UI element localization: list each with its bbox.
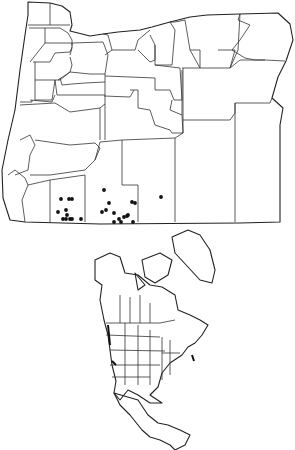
occurrence-dot bbox=[70, 217, 74, 221]
range-shading bbox=[108, 325, 194, 365]
county-lines bbox=[8, 3, 285, 222]
political-boundaries bbox=[106, 295, 180, 385]
greenland-outline bbox=[172, 230, 215, 283]
occurrence-dot bbox=[104, 208, 108, 212]
occurrence-dot bbox=[102, 188, 106, 192]
occurrence-dot bbox=[79, 217, 83, 221]
occurrence-dot bbox=[126, 213, 130, 217]
occurrence-dot bbox=[100, 210, 104, 214]
arctic-islands-outline bbox=[135, 253, 172, 290]
occurrence-dot bbox=[64, 208, 68, 212]
occurrence-dot bbox=[56, 210, 60, 214]
occurrence-dot bbox=[70, 197, 74, 201]
occurrence-dot bbox=[65, 213, 69, 217]
occurrence-dots bbox=[56, 188, 163, 224]
occurrence-dot bbox=[112, 220, 116, 224]
occurrence-dot bbox=[64, 217, 68, 221]
alaska-canada-outline bbox=[95, 253, 208, 403]
occurrence-dot bbox=[131, 220, 135, 224]
occurrence-dot bbox=[59, 197, 63, 201]
occurrence-dot bbox=[159, 195, 163, 199]
mexico-central-america-outline bbox=[114, 393, 190, 450]
occurrence-dot bbox=[107, 201, 111, 205]
oregon-outline bbox=[2, 2, 293, 224]
occurrence-dot bbox=[112, 211, 116, 215]
occurrence-dot bbox=[133, 201, 137, 205]
occurrence-dot bbox=[119, 220, 123, 224]
oregon-county-map bbox=[0, 0, 295, 230]
